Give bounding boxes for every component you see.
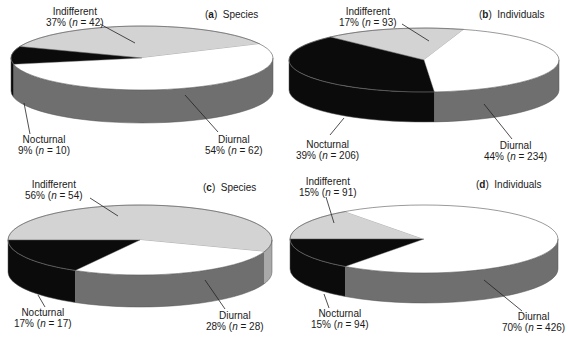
panel-a: (a) Species Indifferent 37% (n = 42) Noc… [0,0,284,170]
leader-line [38,295,45,307]
label-diurnal-a: Diurnal 54% (n = 62) [205,134,263,156]
panel-c: (c) Species Indifferent 56% (n = 54) Noc… [0,170,284,340]
panel-d: (d) Individuals Indifferent 15% (n = 91)… [284,170,568,340]
panel-title-b: (b) Individuals [479,9,545,20]
label-indifferent-c: Indifferent 56% (n = 54) [25,179,83,201]
label-diurnal-d: Diurnal 70% (n = 426) [502,311,565,333]
label-indifferent-b: Indifferent 17% (n = 93) [339,6,397,28]
label-nocturnal-d: Nocturnal 15% (n = 94) [311,308,369,330]
panel-title-c: (c) Species [203,182,256,193]
label-diurnal-c: Diurnal 28% (n = 28) [206,310,264,332]
panel-b: (b) Individuals Indifferent 17% (n = 93)… [284,0,568,170]
panel-title-a: (a) Species [205,9,258,20]
leader-line [24,103,30,134]
label-indifferent-a: Indifferent 37% (n = 42) [46,6,104,28]
panel-title-d: (d) Individuals [476,179,542,190]
leader-line [330,118,344,135]
label-nocturnal-c: Nocturnal 17% (n = 17) [14,307,72,329]
label-indifferent-d: Indifferent 15% (n = 91) [299,176,357,198]
label-diurnal-b: Diurnal 44% (n = 234) [484,140,547,162]
label-nocturnal-a: Nocturnal 9% (n = 10) [18,134,70,156]
label-nocturnal-b: Nocturnal 39% (n = 206) [296,139,359,161]
leader-line [324,294,329,308]
